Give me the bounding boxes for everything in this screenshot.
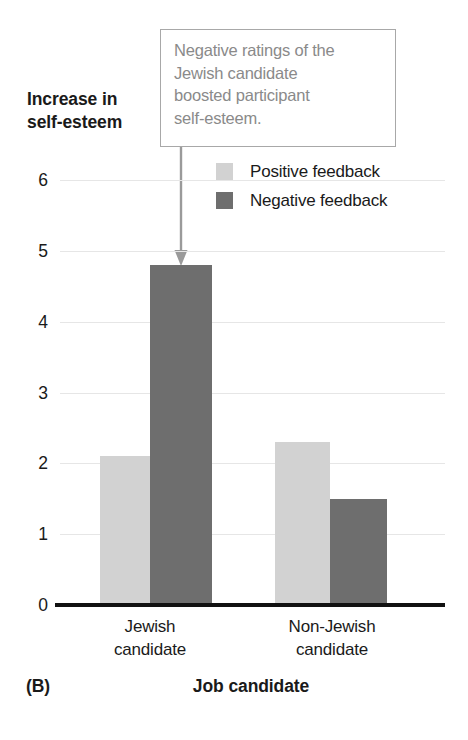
y-axis-title: Increase in self-esteem (27, 88, 167, 134)
x-axis-baseline (55, 603, 445, 607)
y-tick-3: 3 (22, 382, 48, 403)
annotation-callout-box: Negative ratings of the Jewish candidate… (160, 29, 396, 147)
bar-nonjewish-positive (275, 442, 330, 605)
y-axis-title-line-2: self-esteem (27, 111, 167, 134)
bar-jewish-negative (150, 265, 212, 605)
annotation-line-1: Negative ratings of the (174, 39, 383, 62)
x-tick-label-nonjewish-line-1: Non-Jewish (262, 616, 402, 639)
y-tick-0: 0 (22, 595, 48, 616)
y-tick-1: 1 (22, 524, 48, 545)
y-tick-5: 5 (22, 240, 48, 261)
y-axis-title-line-1: Increase in (27, 88, 167, 111)
x-tick-label-jewish: Jewish candidate (85, 616, 215, 661)
chart-figure: Increase in self-esteem Negative ratings… (0, 0, 468, 740)
x-tick-label-nonjewish-line-2: candidate (262, 639, 402, 662)
x-tick-label-jewish-line-2: candidate (85, 639, 215, 662)
y-tick-4: 4 (22, 311, 48, 332)
legend-swatch-positive-icon (216, 163, 233, 180)
bar-jewish-positive (100, 456, 150, 605)
annotation-line-4: self-esteem. (174, 107, 383, 130)
x-tick-label-nonjewish: Non-Jewish candidate (262, 616, 402, 661)
annotation-callout-text: Negative ratings of the Jewish candidate… (174, 39, 383, 129)
bar-nonjewish-negative (330, 499, 387, 605)
y-axis-tick-labels: 6 5 4 3 2 1 0 (22, 180, 48, 605)
plot-area (60, 180, 445, 605)
legend-label-positive: Positive feedback (250, 162, 380, 182)
y-tick-2: 2 (22, 453, 48, 474)
x-axis-title: Job candidate (0, 676, 468, 697)
annotation-line-3: boosted participant (174, 84, 383, 107)
x-tick-label-jewish-line-1: Jewish (85, 616, 215, 639)
annotation-line-2: Jewish candidate (174, 62, 383, 85)
y-tick-6: 6 (22, 170, 48, 191)
bars-layer (60, 180, 445, 605)
